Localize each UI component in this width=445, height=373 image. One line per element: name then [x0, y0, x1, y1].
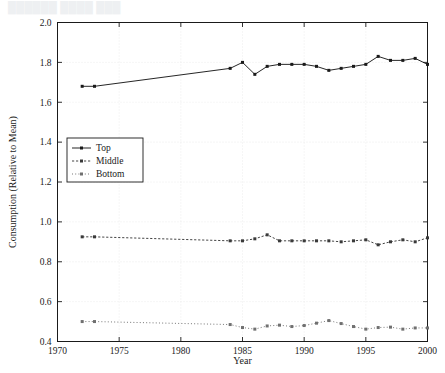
- data-point-marker: [241, 326, 244, 329]
- data-point-marker: [278, 239, 281, 242]
- y-tick-label-1.4: 1.4: [40, 137, 52, 147]
- x-tick-label-1975: 1975: [110, 346, 129, 356]
- data-point-marker: [229, 239, 232, 242]
- y-tick-label-1.0: 1.0: [40, 217, 52, 227]
- data-point-marker: [81, 85, 84, 88]
- data-point-marker: [401, 328, 404, 331]
- data-point-marker: [401, 238, 404, 241]
- y-tick-label-1.6: 1.6: [40, 98, 52, 108]
- data-point-marker: [327, 319, 330, 322]
- data-point-marker: [290, 63, 293, 66]
- data-point-marker: [340, 322, 343, 325]
- chart-figure: ██████ ████ ███ 197019751980198519901995…: [0, 0, 445, 373]
- x-tick-label-1980: 1980: [171, 346, 190, 356]
- y-axis-title: Consumption (Relative to Mean): [7, 116, 19, 248]
- data-point-marker: [414, 240, 417, 243]
- legend[interactable]: TopMiddleBottom: [67, 138, 143, 182]
- data-point-marker: [389, 59, 392, 62]
- data-point-marker: [253, 73, 256, 76]
- data-point-marker: [81, 235, 84, 238]
- data-point-marker: [315, 65, 318, 68]
- data-point-marker: [340, 67, 343, 70]
- data-point-marker: [290, 325, 293, 328]
- data-point-marker: [389, 240, 392, 243]
- series-bottom: [81, 319, 429, 331]
- data-point-marker: [253, 328, 256, 331]
- data-point-marker: [389, 326, 392, 329]
- x-axis-tick-labels: 1970197519801985199019952000: [48, 346, 437, 356]
- data-point-marker: [93, 235, 96, 238]
- y-tick-label-0.4: 0.4: [40, 337, 52, 347]
- data-point-marker: [315, 239, 318, 242]
- x-tick-label-1970: 1970: [48, 346, 67, 356]
- data-point-marker: [303, 63, 306, 66]
- data-point-marker: [327, 239, 330, 242]
- x-tick-label-1985: 1985: [233, 346, 252, 356]
- data-point-marker: [426, 326, 429, 329]
- legend-marker-top: [80, 147, 83, 150]
- x-axis-title: Year: [233, 355, 252, 366]
- data-point-marker: [93, 85, 96, 88]
- data-point-marker: [229, 323, 232, 326]
- legend-marker-bottom: [80, 173, 83, 176]
- faint-header-text: ██████ ████ ███: [8, 1, 121, 13]
- data-point-marker: [327, 69, 330, 72]
- data-point-marker: [364, 328, 367, 331]
- y-tick-label-0.6: 0.6: [40, 297, 52, 307]
- data-point-marker: [426, 236, 429, 239]
- x-tick-label-1990: 1990: [295, 346, 314, 356]
- data-point-marker: [266, 324, 269, 327]
- data-point-marker: [93, 320, 96, 323]
- data-point-marker: [241, 61, 244, 64]
- data-point-marker: [315, 322, 318, 325]
- legend-label-middle: Middle: [96, 156, 123, 166]
- data-point-marker: [253, 237, 256, 240]
- data-series-group: [81, 55, 429, 331]
- y-tick-label-0.8: 0.8: [40, 257, 52, 267]
- data-point-marker: [352, 325, 355, 328]
- x-tick-label-2000: 2000: [418, 346, 437, 356]
- data-point-marker: [377, 326, 380, 329]
- data-point-marker: [426, 63, 429, 66]
- data-point-marker: [364, 238, 367, 241]
- data-point-marker: [81, 320, 84, 323]
- data-point-marker: [290, 239, 293, 242]
- data-point-marker: [414, 57, 417, 60]
- legend-marker-middle: [80, 160, 83, 163]
- data-point-marker: [278, 324, 281, 327]
- series-middle: [81, 233, 429, 246]
- line-chart-canvas: 1970197519801985199019952000 0.40.60.81.…: [0, 0, 445, 373]
- series-top: [81, 55, 429, 88]
- data-point-marker: [241, 239, 244, 242]
- data-point-marker: [352, 65, 355, 68]
- data-point-marker: [401, 59, 404, 62]
- legend-label-bottom: Bottom: [96, 169, 125, 179]
- series-line-top: [82, 56, 427, 86]
- data-point-marker: [303, 324, 306, 327]
- data-point-marker: [414, 326, 417, 329]
- y-axis-tick-labels: 0.40.60.81.01.21.41.61.82.0: [40, 18, 52, 347]
- data-point-marker: [266, 233, 269, 236]
- data-point-marker: [229, 67, 232, 70]
- data-point-marker: [266, 65, 269, 68]
- y-tick-label-1.2: 1.2: [40, 177, 52, 187]
- data-point-marker: [352, 239, 355, 242]
- data-point-marker: [278, 63, 281, 66]
- x-tick-label-1995: 1995: [356, 346, 375, 356]
- data-point-marker: [340, 240, 343, 243]
- data-point-marker: [377, 243, 380, 246]
- data-point-marker: [303, 239, 306, 242]
- legend-label-top: Top: [96, 143, 111, 153]
- data-point-marker: [377, 55, 380, 58]
- y-tick-label-1.8: 1.8: [40, 58, 52, 68]
- y-tick-label-2.0: 2.0: [40, 18, 52, 28]
- data-point-marker: [364, 63, 367, 66]
